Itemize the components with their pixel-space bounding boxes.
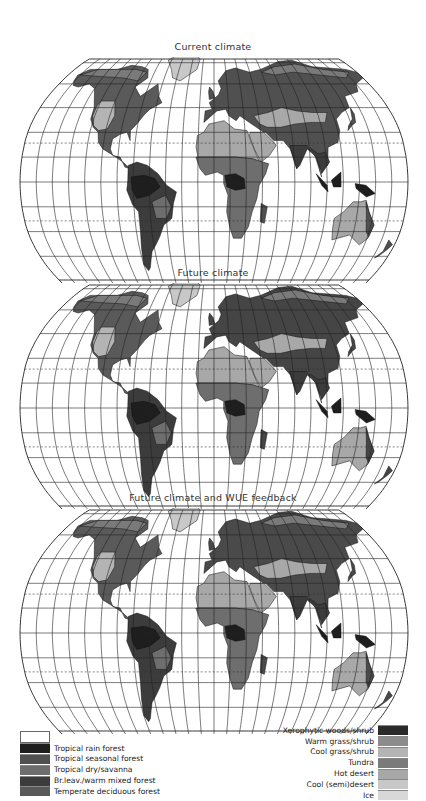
land-region bbox=[331, 172, 341, 187]
legend-label: Hot desert bbox=[334, 769, 374, 778]
legend-item: Tropical rain forest bbox=[20, 743, 160, 754]
meridian-line bbox=[36, 285, 100, 509]
legend-label: Ice bbox=[363, 791, 374, 800]
land-region bbox=[374, 691, 392, 709]
legend-item: Tropical seasonal forest bbox=[20, 754, 160, 765]
land-region bbox=[196, 608, 269, 689]
land-region bbox=[355, 184, 375, 197]
land-region bbox=[331, 398, 341, 413]
legend-item: Tropical dry/savanna bbox=[20, 764, 160, 775]
meridian-line bbox=[182, 285, 194, 509]
legend-item: Tundra bbox=[283, 757, 408, 768]
legend-swatch bbox=[20, 786, 50, 796]
meridian-line bbox=[182, 510, 194, 734]
legend-item: Warm grass/shrub bbox=[283, 736, 408, 747]
legend-swatch bbox=[20, 765, 50, 775]
legend-swatch bbox=[378, 790, 408, 800]
land-region bbox=[196, 572, 260, 613]
legend-swatch bbox=[20, 776, 50, 786]
land-region bbox=[355, 410, 375, 423]
legend-swatch bbox=[20, 731, 50, 743]
panel-title: Future climate bbox=[0, 267, 426, 278]
legend-swatch bbox=[20, 754, 50, 764]
legend-item: Hot desert bbox=[283, 768, 408, 779]
legend-label: Cool (semi)desert bbox=[307, 780, 374, 789]
land-region bbox=[316, 625, 328, 643]
legend-swatch bbox=[378, 758, 408, 768]
legend-swatch bbox=[378, 736, 408, 746]
world-map bbox=[18, 508, 410, 736]
land-region bbox=[316, 174, 328, 192]
meridian-line bbox=[166, 59, 183, 283]
land-region bbox=[355, 635, 375, 648]
land-region bbox=[316, 400, 328, 418]
legend-item: Xerophytic woods/shrub bbox=[283, 725, 408, 736]
land-region bbox=[196, 347, 260, 388]
meridian-line bbox=[36, 59, 100, 283]
land-region bbox=[168, 57, 200, 81]
land-region bbox=[374, 466, 392, 484]
legend-left: Tropical rain forestTropical seasonal fo… bbox=[20, 732, 160, 797]
panel-title: Future climate and WUE feedback bbox=[0, 492, 426, 503]
legend-label: Tropical seasonal forest bbox=[54, 754, 143, 763]
land-region bbox=[168, 508, 200, 532]
legend-label: Cool grass/shrub bbox=[310, 747, 374, 756]
legend-swatch bbox=[378, 779, 408, 789]
legend-label: Warm grass/shrub bbox=[305, 737, 374, 746]
world-map bbox=[18, 283, 410, 511]
legend-item: Cool grass/shrub bbox=[283, 747, 408, 758]
legend-label: Temperate deciduous forest bbox=[54, 787, 160, 796]
meridian-line bbox=[166, 510, 183, 734]
land-region bbox=[331, 623, 341, 638]
meridian-line bbox=[36, 510, 100, 734]
land-region bbox=[374, 240, 392, 258]
legend-item: Temperate deciduous forest bbox=[20, 786, 160, 797]
meridian-line bbox=[20, 285, 89, 509]
land-region bbox=[168, 283, 200, 307]
legend-label: Tundra bbox=[348, 758, 374, 767]
legend-swatch bbox=[378, 769, 408, 779]
world-map bbox=[18, 57, 410, 285]
legend-label: Tropical rain forest bbox=[54, 744, 124, 753]
land-region bbox=[196, 383, 269, 464]
legend-label: Xerophytic woods/shrub bbox=[283, 726, 374, 735]
legend-swatch bbox=[378, 725, 408, 735]
legend-swatch bbox=[20, 743, 50, 753]
legend-item: Ice bbox=[283, 790, 408, 801]
legend-swatch bbox=[378, 747, 408, 757]
meridian-line bbox=[166, 285, 183, 509]
land-region bbox=[196, 157, 269, 238]
legend-right: Xerophytic woods/shrubWarm grass/shrubCo… bbox=[283, 725, 408, 801]
land-region bbox=[196, 121, 260, 162]
meridian-line bbox=[20, 59, 89, 283]
legend-item: Cool (semi)desert bbox=[283, 779, 408, 790]
meridian-line bbox=[182, 59, 194, 283]
panel-title: Current climate bbox=[0, 41, 426, 52]
meridian-line bbox=[20, 510, 89, 734]
legend-item: Br.leav./warm mixed forest bbox=[20, 775, 160, 786]
legend-item bbox=[20, 732, 160, 743]
legend-label: Tropical dry/savanna bbox=[54, 765, 132, 774]
legend-label: Br.leav./warm mixed forest bbox=[54, 776, 156, 785]
